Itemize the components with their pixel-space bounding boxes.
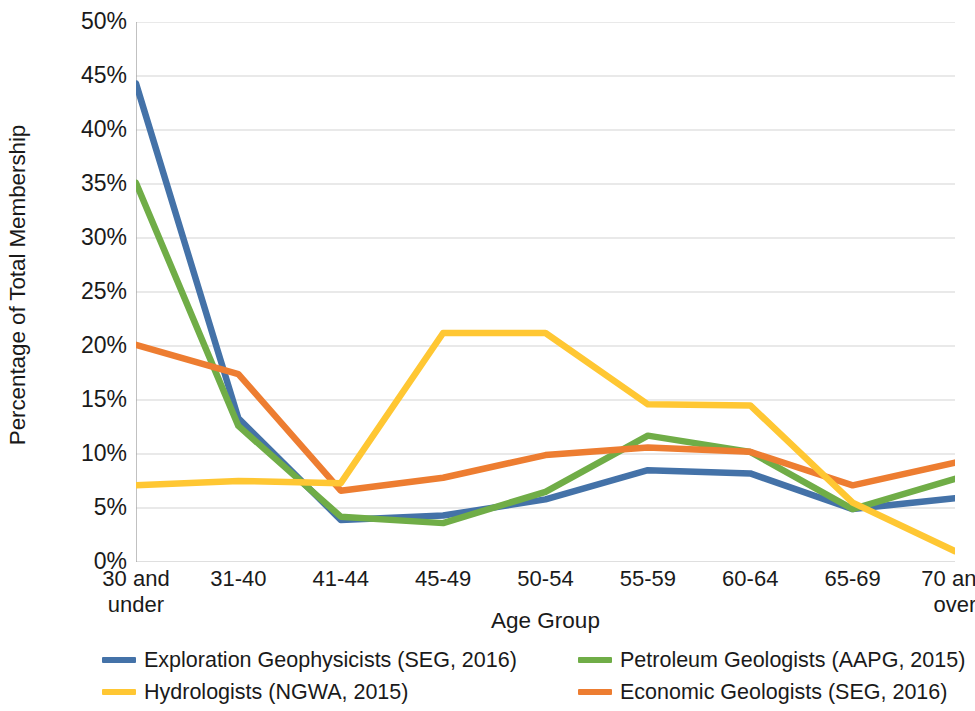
y-tick-label: 45% <box>50 64 136 87</box>
y-tick-label: 10% <box>50 442 136 465</box>
legend-item[interactable]: Exploration Geophysicists (SEG, 2016) <box>102 645 517 675</box>
y-tick-label: 25% <box>50 280 136 303</box>
chart-legend: Exploration Geophysicists (SEG, 2016)Pet… <box>62 645 962 709</box>
legend-swatch-icon <box>578 689 612 695</box>
legend-label: Exploration Geophysicists (SEG, 2016) <box>144 649 517 671</box>
y-tick-label: 50% <box>50 10 136 33</box>
plot-area <box>136 22 955 562</box>
y-tick-label: 30% <box>50 226 136 249</box>
y-axis-tick-labels: 0%5%10%15%20%25%30%35%40%45%50% <box>36 0 136 580</box>
legend-item[interactable]: Hydrologists (NGWA, 2015) <box>102 677 408 707</box>
y-axis-title-label: Percentage of Total Membership <box>5 125 31 446</box>
line-chart: Percentage of Total Membership 0%5%10%15… <box>0 0 975 711</box>
x-axis-title: Age Group <box>136 608 955 634</box>
y-tick-label: 20% <box>50 334 136 357</box>
legend-swatch-icon <box>578 657 612 663</box>
y-tick-label: 5% <box>50 496 136 519</box>
series-line[interactable] <box>136 345 955 491</box>
series-line[interactable] <box>136 183 955 523</box>
plot-svg <box>136 22 955 562</box>
y-axis-title: Percentage of Total Membership <box>0 0 36 570</box>
legend-label: Hydrologists (NGWA, 2015) <box>144 681 408 703</box>
legend-swatch-icon <box>102 689 136 695</box>
legend-item[interactable]: Petroleum Geologists (AAPG, 2015) <box>578 645 965 675</box>
series-lines <box>136 84 955 552</box>
y-tick-label: 35% <box>50 172 136 195</box>
legend-label: Petroleum Geologists (AAPG, 2015) <box>620 649 965 671</box>
y-tick-label: 40% <box>50 118 136 141</box>
legend-swatch-icon <box>102 657 136 663</box>
y-tick-label: 15% <box>50 388 136 411</box>
legend-label: Economic Geologists (SEG, 2016) <box>620 681 947 703</box>
legend-item[interactable]: Economic Geologists (SEG, 2016) <box>578 677 947 707</box>
